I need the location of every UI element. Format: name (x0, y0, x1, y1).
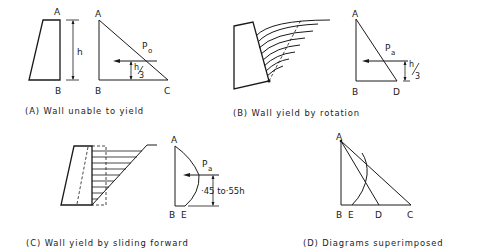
point-label-b: B (55, 86, 61, 96)
height-label: h (77, 47, 83, 57)
point-label-a: A (171, 135, 178, 145)
point-label-c: C (164, 86, 170, 96)
retaining-wall-shape (61, 146, 92, 205)
pressure-diagram-at-rest: A B C P o h 3 (95, 9, 170, 96)
svg-text:o: o (148, 47, 152, 55)
arrowhead-icon (72, 76, 75, 80)
caption-c: (C) Wall yield by sliding forward (26, 238, 189, 248)
point-label-b: B (352, 87, 358, 97)
svg-text:3: 3 (139, 71, 144, 80)
retaining-wall-shape (234, 22, 269, 89)
arrowhead-icon (183, 173, 190, 177)
force-label-pa: P a (202, 159, 212, 173)
point-label-e: E (181, 210, 187, 220)
arrowhead-icon (212, 202, 215, 206)
caption-a: (A) Wall unable to yield (25, 106, 144, 116)
pressure-diagram-rotation: A B D P a h 3 (352, 9, 420, 97)
arrowhead-icon (212, 175, 215, 179)
arrowhead-icon (362, 59, 369, 63)
point-label-a: A (336, 132, 343, 142)
point-label-a: A (95, 9, 102, 19)
failure-plane (269, 20, 301, 81)
point-label-d: D (393, 87, 400, 97)
svg-text:h: h (409, 60, 414, 69)
force-label-p0: P o (142, 41, 152, 55)
wall-b-rotated (234, 22, 271, 89)
svg-text:a: a (391, 49, 395, 57)
arrowhead-icon (113, 59, 120, 63)
height-dimension: h (66, 20, 83, 80)
caption-b: (B) Wall yield by rotation (233, 108, 360, 118)
panel-c: A B E P a ·45 to·55h (C) Wall yield by s… (26, 135, 245, 248)
point-label-c: C (407, 210, 413, 220)
panel-b: A B D P a h 3 (B) Wall yield by rotation (233, 9, 420, 118)
panel-d: A B E D C (D) Diagrams superimposed (303, 132, 443, 248)
svg-text:3: 3 (415, 72, 420, 81)
point-label-a: A (352, 9, 359, 19)
panel-a: h A B A B C P o h 3 (A) Wall unable to y… (25, 7, 170, 116)
displaced-position (92, 146, 106, 205)
lever-arm-h-over-3: h 3 (134, 63, 144, 80)
superimposed-diagrams (340, 140, 411, 205)
lever-arm-h-over-3: h 3 (409, 60, 420, 81)
point-label-d: D (375, 210, 382, 220)
point-label-b: B (336, 210, 342, 220)
point-label-b: B (95, 86, 101, 96)
arrowhead-icon (404, 61, 407, 65)
caption-d: (D) Diagrams superimposed (303, 238, 443, 248)
at-rest-triangle-abc (341, 141, 411, 205)
point-label-e: E (348, 210, 354, 220)
lever-arm-range: ·45 to·55h (201, 186, 245, 196)
point-label-b: B (169, 210, 175, 220)
point-label-a: A (54, 7, 61, 17)
original-wall-face (77, 147, 88, 204)
retaining-wall-shape (29, 20, 60, 80)
arrowhead-icon (130, 76, 133, 80)
arrowhead-icon (404, 77, 407, 81)
arrowhead-icon (130, 61, 133, 65)
arrowhead-icon (72, 20, 75, 24)
sliding-curve-ae (352, 153, 367, 205)
force-label-pa: P a (385, 43, 395, 57)
svg-text:a: a (208, 165, 212, 173)
wall-c-sliding (61, 146, 106, 205)
pressure-diagram-sliding: A B E P a ·45 to·55h (169, 135, 245, 220)
wall-a (29, 20, 60, 80)
earth-pressure-figure: h A B A B C P o h 3 (A) Wall unable to y… (0, 0, 479, 252)
backfill-wedge (92, 145, 157, 205)
